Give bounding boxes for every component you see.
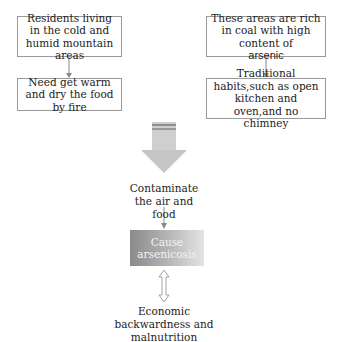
contaminate-label: Contaminate the air and food bbox=[124, 182, 204, 221]
cause-arsenicosis-box: Cause arsenicosis bbox=[130, 230, 204, 266]
residents-box: Residents living in the cold and humid m… bbox=[17, 16, 122, 57]
outcome-label: Economic backwardness and malnutrition bbox=[104, 305, 224, 342]
warm-dry-text: Need get warm and dry the food by fire bbox=[21, 76, 118, 114]
arsenic-text: arsenic bbox=[248, 49, 283, 62]
cause-arsenicosis-text: Cause arsenicosis bbox=[137, 236, 196, 261]
big-down-arrow-icon bbox=[141, 122, 187, 173]
coal-text: These areas are rich in coal with high c… bbox=[210, 12, 322, 50]
coal-arsenic-box: These areas are rich in coal with high c… bbox=[206, 16, 326, 57]
double-arrow-icon bbox=[159, 270, 169, 302]
warm-dry-box: Need get warm and dry the food by fire bbox=[17, 78, 122, 111]
traditional-habits-box: Traditional habits,such as open kitchen … bbox=[206, 78, 326, 119]
traditional-habits-text: Traditional habits,such as open kitchen … bbox=[210, 67, 322, 130]
residents-text: Residents living in the cold and humid m… bbox=[21, 12, 118, 62]
